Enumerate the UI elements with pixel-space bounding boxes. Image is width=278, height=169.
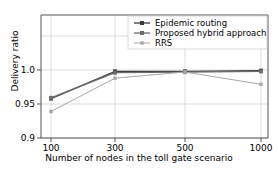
y-tick-marks xyxy=(37,70,41,138)
data-point xyxy=(113,76,116,79)
y-tick-label-0: 0.9 xyxy=(21,133,36,143)
chart-figure: 0.9 0.95 1.0 100 300 500 1000 Epidemic r… xyxy=(0,0,278,169)
chart-legend: Epidemic routingProposed hybrid approach… xyxy=(128,16,267,49)
data-point xyxy=(259,83,262,86)
legend-marker-3 xyxy=(140,41,143,44)
data-point xyxy=(183,70,186,73)
x-tick-label-1: 300 xyxy=(106,143,123,153)
y-tick-label-2: 1.0 xyxy=(21,65,36,75)
x-tick-label-2: 500 xyxy=(176,143,193,153)
x-tick-label-0: 100 xyxy=(42,143,59,153)
legend-label-1: Epidemic routing xyxy=(155,18,227,28)
legend-marker-1 xyxy=(140,21,144,25)
data-point xyxy=(49,110,52,113)
legend-label-3: RRS xyxy=(155,38,172,48)
x-tick-label-3: 1000 xyxy=(250,143,273,153)
data-point xyxy=(259,69,263,73)
x-tick-marks xyxy=(51,138,261,142)
legend-marker-2 xyxy=(140,31,144,35)
data-point xyxy=(113,71,117,75)
x-axis-title: Number of nodes in the toll gate scenari… xyxy=(0,153,278,163)
y-axis-title: Delivery ratio xyxy=(10,16,20,106)
data-point xyxy=(49,96,53,100)
line-chart-plot: 0.9 0.95 1.0 100 300 500 1000 Epidemic r… xyxy=(0,0,278,169)
legend-label-2: Proposed hybrid approach xyxy=(155,28,266,38)
